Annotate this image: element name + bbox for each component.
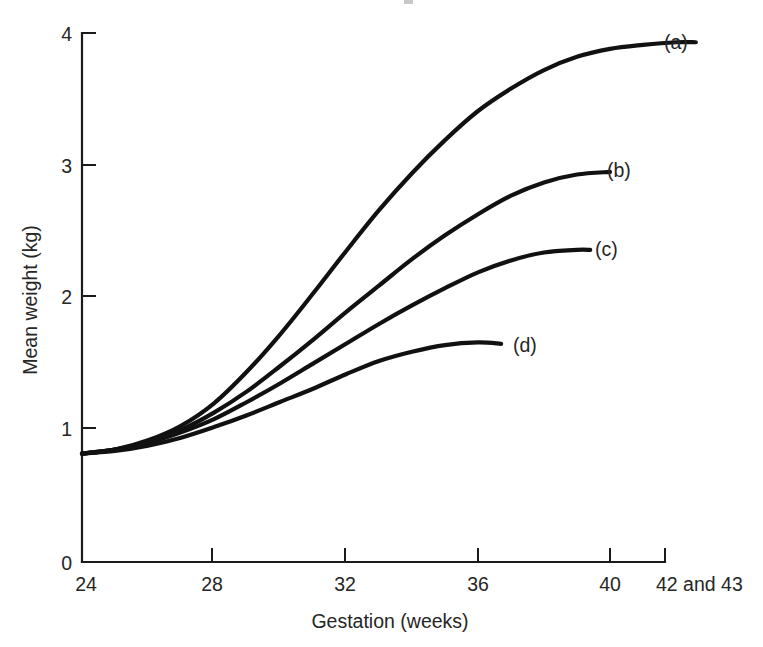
- series-label-b: (b): [607, 159, 631, 181]
- chart-figure: 4 3 2 1 0 24 28 32 36 40 42 and 43 Mean …: [0, 0, 763, 647]
- y-axis-title: Mean weight (kg): [19, 225, 41, 375]
- x-tick-label-42-43: 42 and 43: [656, 573, 743, 595]
- x-tick-label-24: 24: [75, 573, 97, 595]
- series-curve-b: [82, 172, 610, 454]
- x-tick-label-32: 32: [334, 573, 356, 595]
- axis-group: [82, 33, 665, 562]
- y-tick-label-0: 0: [61, 552, 72, 574]
- line-chart-canvas: 4 3 2 1 0 24 28 32 36 40 42 and 43 Mean …: [0, 0, 763, 647]
- x-axis-title: Gestation (weeks): [311, 610, 468, 632]
- series-label-c: (c): [595, 238, 618, 260]
- y-tick-label-3: 3: [61, 155, 72, 177]
- y-tick-label-2: 2: [61, 286, 72, 308]
- y-tick-label-1: 1: [61, 418, 72, 440]
- x-tick-label-36: 36: [467, 573, 489, 595]
- y-tick-label-4: 4: [61, 23, 72, 45]
- x-tick-marks: [212, 548, 665, 562]
- series-label-d: (d): [513, 334, 537, 356]
- y-tick-labels: 4 3 2 1 0: [61, 23, 72, 574]
- x-tick-labels: 24 28 32 36 40 42 and 43: [75, 573, 743, 595]
- y-tick-marks: [82, 33, 96, 428]
- series-label-a: (a): [664, 31, 688, 53]
- x-tick-label-40: 40: [599, 573, 621, 595]
- x-tick-label-28: 28: [201, 573, 223, 595]
- series-labels: (a) (b) (c) (d): [513, 31, 688, 356]
